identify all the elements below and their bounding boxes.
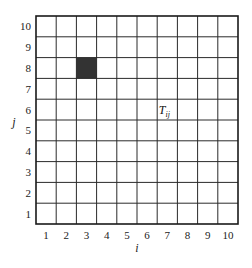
x-tick-label: 5 [124,229,130,241]
x-tick-label: 2 [64,229,70,241]
y-tick-label: 4 [26,145,32,157]
x-tick-label: 7 [165,229,171,241]
x-tick-label: 10 [222,229,234,241]
y-tick-label: 6 [26,104,32,116]
x-tick-label: 3 [84,229,90,241]
x-axis-ticks: 12345678910 [43,229,234,241]
x-axis-label: i [135,241,138,255]
highlighted-cells-layer [76,58,96,79]
y-tick-label: 7 [26,83,32,95]
y-axis-ticks: 12345678910 [20,20,32,219]
y-tick-label: 5 [26,124,32,136]
grid-lines [36,16,238,224]
x-tick-label: 1 [43,229,49,241]
y-tick-label: 10 [20,20,32,32]
y-axis-label: j [10,115,16,129]
cell-label-subscript: ij [165,110,170,119]
highlighted-cell-3-8 [76,58,96,79]
y-tick-label: 1 [26,208,32,220]
y-tick-label: 8 [26,62,32,74]
y-tick-label: 9 [26,41,32,53]
x-tick-label: 6 [144,229,150,241]
x-tick-label: 4 [104,229,110,241]
x-tick-label: 9 [205,229,211,241]
cell-labels-layer: Tij [159,103,171,119]
grid-diagram: 12345678910 12345678910 Tij i j [0,0,252,268]
y-tick-label: 3 [26,166,32,178]
cell-label-7-6: Tij [159,103,171,119]
x-tick-label: 8 [185,229,191,241]
y-tick-label: 2 [26,187,32,199]
